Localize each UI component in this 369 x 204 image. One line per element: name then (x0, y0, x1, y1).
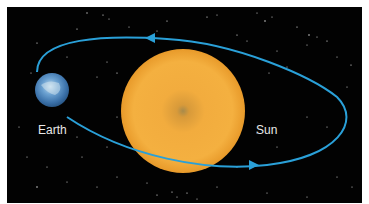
orbit-diagram (7, 7, 362, 203)
sun (121, 49, 245, 173)
space-background: Earth Sun (7, 7, 362, 203)
sun-label: Sun (256, 123, 277, 137)
earth-label: Earth (38, 123, 67, 137)
orbit-arrow-bottom (249, 160, 259, 170)
orbit-arrow-top (145, 33, 155, 43)
